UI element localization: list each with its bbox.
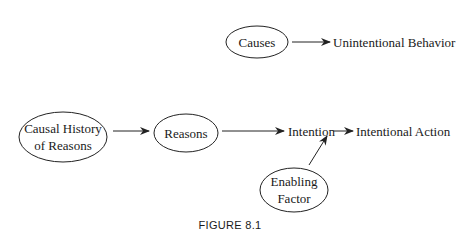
causal-history-line2: of Reasons	[34, 138, 91, 153]
intention-label: Intention	[288, 124, 335, 139]
figure-caption: FIGURE 8.1	[199, 219, 262, 231]
causal-history-line1: Causal History	[24, 121, 102, 136]
intentional-action-label: Intentional Action	[356, 124, 451, 139]
node-reasons: Reasons	[154, 114, 218, 152]
enabling-factor-line1: Enabling	[271, 174, 318, 189]
enabling-factor-line2: Factor	[277, 191, 311, 206]
reasons-label: Reasons	[164, 126, 207, 141]
arrow-enabling-factor	[309, 136, 327, 165]
node-enabling-factor: Enabling Factor	[260, 168, 328, 212]
unintentional-behavior-label: Unintentional Behavior	[333, 35, 456, 50]
node-causes: Causes	[226, 26, 288, 58]
node-causal-history: Causal History of Reasons	[19, 112, 107, 162]
causes-label: Causes	[239, 35, 276, 50]
diagram-canvas: Causes Unintentional Behavior Causal His…	[0, 0, 460, 239]
causal-history-ellipse	[19, 112, 107, 162]
